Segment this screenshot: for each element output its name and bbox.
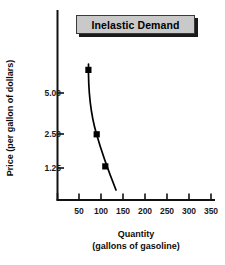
x-tick-label-50: 50 <box>74 206 83 216</box>
x-tick-label-150: 150 <box>116 206 130 216</box>
x-tick-label-200: 200 <box>138 206 152 216</box>
y-tick-label-1-25: 1.25 <box>44 163 61 173</box>
data-point-3 <box>102 163 108 169</box>
x-tick-label-100: 100 <box>94 206 108 216</box>
x-tick-label-250: 250 <box>160 206 174 216</box>
x-tick-label-350: 350 <box>204 206 218 216</box>
demand-curve <box>88 64 116 190</box>
x-axis-label-sub: (gallons of gasoline) <box>57 240 215 252</box>
y-axis-label-wrap: Price (per gallon of dollars) <box>0 48 20 188</box>
y-tick-label-2-50: 2.50 <box>44 129 61 139</box>
x-axis-label-wrap: Quantity (gallons of gasoline) <box>57 228 215 252</box>
x-tick-label-300: 300 <box>182 206 196 216</box>
y-axis-label: Price (per gallon of dollars) <box>5 60 15 177</box>
x-axis-label: Quantity <box>57 228 215 240</box>
data-point-2 <box>94 131 100 137</box>
plot-area <box>0 0 225 265</box>
y-tick-label-5-00: 5.00 <box>44 88 61 98</box>
data-point-1 <box>85 67 91 73</box>
inelastic-demand-figure: Inelastic Demand <box>0 0 225 265</box>
x-axis-ticks <box>58 193 212 200</box>
